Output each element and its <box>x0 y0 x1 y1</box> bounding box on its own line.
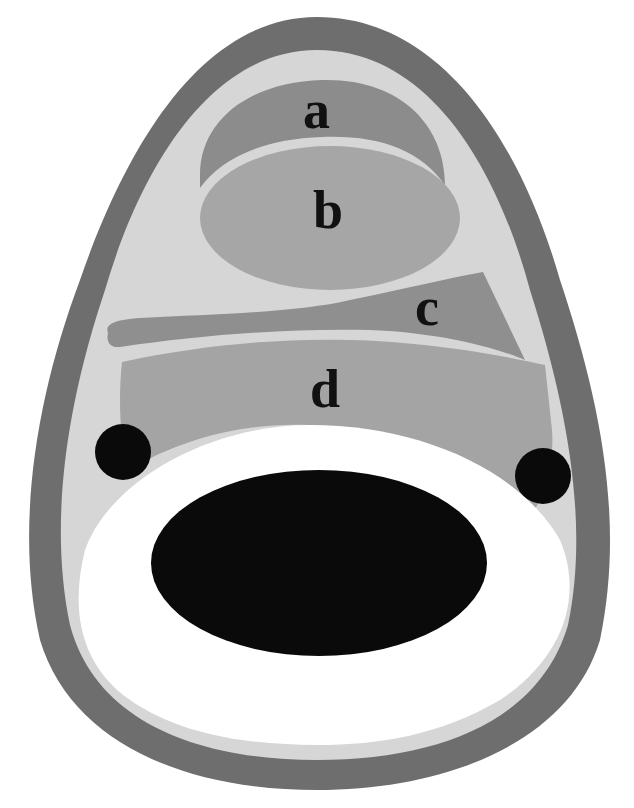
label-d: d <box>310 359 340 419</box>
right-dot <box>515 448 571 504</box>
central-ellipse <box>151 470 487 656</box>
label-c: c <box>415 277 439 337</box>
cross-section-diagram: a b c d <box>0 0 634 808</box>
label-a: a <box>303 80 330 140</box>
left-dot <box>95 424 151 480</box>
label-b: b <box>313 180 343 240</box>
